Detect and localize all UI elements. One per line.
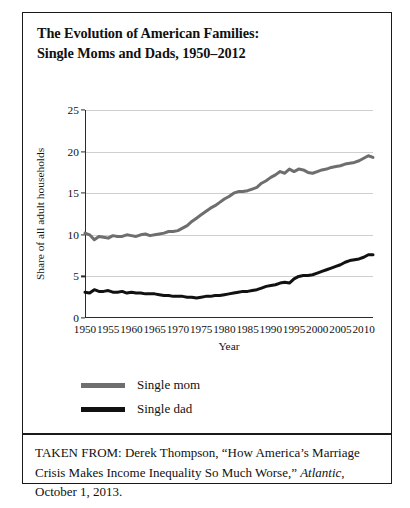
x-tick-label: 2000 (306, 323, 328, 335)
x-tick-label: 1985 (236, 323, 258, 335)
legend-swatch (81, 407, 125, 412)
chart: Share of all adult households 0510152025… (31, 85, 385, 365)
legend-item-single-dad: Single dad (81, 397, 341, 421)
series-line-single-mom (85, 156, 373, 240)
series-lines (85, 110, 373, 318)
plot-area: 0510152025 19501955196019651970197519801… (85, 110, 373, 318)
y-tick-label: 15 (68, 187, 79, 199)
x-tick-label: 1965 (143, 323, 165, 335)
x-axis-title-label: Year (219, 340, 240, 352)
x-tick-label: 1970 (167, 323, 189, 335)
plot-inner: 0510152025 19501955196019651970197519801… (85, 110, 373, 318)
x-tick-label: 1950 (74, 323, 96, 335)
source-divider (23, 433, 391, 435)
y-tick-label: 10 (68, 229, 79, 241)
x-tick-label: 1960 (120, 323, 142, 335)
source-note: TAKEN FROM: Derek Thompson, “How America… (35, 443, 381, 502)
series-line-single-dad (85, 255, 373, 298)
x-tick-label: 1955 (97, 323, 119, 335)
y-axis-title-label: Share of all adult households (34, 148, 46, 280)
chart-legend: Single momSingle dad (81, 373, 341, 421)
x-tick-label: 1990 (260, 323, 282, 335)
legend-swatch (81, 383, 125, 388)
x-tick-label: 1975 (190, 323, 212, 335)
figure-title-line-2: Single Moms and Dads, 1950–2012 (37, 43, 367, 63)
x-tick-label: 2010 (353, 323, 375, 335)
x-tick-label: 1980 (213, 323, 235, 335)
y-tick-label: 5 (73, 270, 79, 282)
legend-label: Single mom (137, 377, 200, 393)
x-axis-title: Year (85, 340, 373, 352)
y-tick-label: 25 (68, 104, 79, 116)
source-publication: Atlantic (300, 465, 341, 480)
x-tick-label: 1995 (283, 323, 305, 335)
y-tick-label: 20 (68, 146, 79, 158)
figure-title: The Evolution of American Families: Sing… (37, 23, 367, 64)
x-tick-label: 2005 (329, 323, 351, 335)
y-axis-title: Share of all adult households (33, 110, 47, 318)
legend-item-single-mom: Single mom (81, 373, 341, 397)
legend-label: Single dad (137, 401, 192, 417)
figure-frame: The Evolution of American Families: Sing… (22, 12, 392, 484)
figure-title-line-1: The Evolution of American Families: (37, 23, 367, 43)
